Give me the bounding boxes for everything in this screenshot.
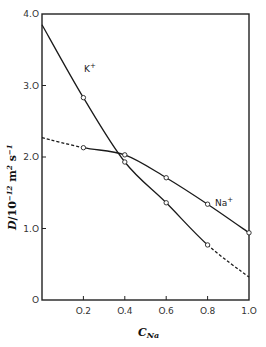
data-point-marker: [205, 243, 209, 247]
y-tick-label: 2.O: [23, 152, 39, 162]
y-tick-label: 3.O: [23, 81, 39, 91]
y-tick-label: 4.O: [23, 9, 39, 19]
x-axis-title: CNa: [138, 326, 159, 340]
data-point-marker: [123, 160, 127, 164]
plot-frame: [42, 14, 249, 300]
series-label-na-plus: Na+: [215, 196, 233, 208]
data-point-marker: [81, 95, 85, 99]
series-k-plus: [42, 25, 249, 277]
data-point-marker: [164, 201, 168, 205]
data-point-marker: [247, 231, 251, 235]
x-tick-label: O.6: [159, 306, 175, 316]
y-tick-label: 1.O: [23, 224, 39, 234]
series-na-plus: [42, 138, 251, 235]
series-line-dashed: [208, 245, 249, 277]
data-point-marker: [81, 146, 85, 150]
data-point-marker: [164, 176, 168, 180]
y-tick-label: O: [32, 295, 39, 305]
data-point-marker: [123, 153, 127, 157]
x-tick-label: O.4: [117, 306, 133, 316]
x-tick-label: O.2: [76, 306, 91, 316]
series-line-solid: [42, 25, 208, 245]
series-layer: [42, 25, 251, 277]
series-line-dashed: [42, 138, 83, 148]
chart: O.2O.4O.6O.81.OO1.O2.O3.O4.O K+Na+ CNa D…: [0, 0, 266, 347]
y-axis-title: D/10−12 m2 s−1: [5, 144, 19, 231]
series-label-k-plus: K+: [84, 62, 96, 74]
data-point-marker: [205, 202, 209, 206]
x-tick-label: O.8: [200, 306, 216, 316]
series-line-solid: [83, 148, 249, 233]
x-tick-label: 1.O: [241, 306, 257, 316]
axis-ticks: [42, 86, 208, 301]
